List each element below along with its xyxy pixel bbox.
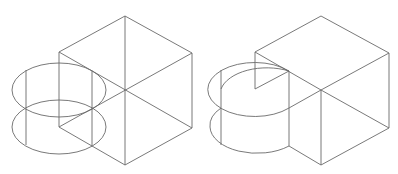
cube-front-lower-edge (289, 90, 321, 108)
diagram-canvas (0, 0, 398, 174)
cube-bottom-edges (289, 128, 389, 165)
cylinder-visible-edges (208, 63, 289, 154)
cylinder-bottom-ellipse-left (210, 108, 221, 127)
cube-visible-edges (255, 16, 389, 165)
cube-top-edges (59, 16, 192, 53)
right-figure (208, 16, 389, 165)
cube-diagonal-ll (59, 53, 192, 127)
cube-notch-diagonal (255, 71, 289, 89)
cube-top-face-edge-right (321, 53, 389, 90)
cube-wireframe (59, 16, 192, 165)
left-figure (12, 16, 192, 165)
cube-bottom-edges (59, 127, 192, 165)
cube-top-edges (255, 16, 389, 53)
cube-lower-right-diagonal (321, 90, 389, 128)
cylinder-bottom-ellipse-front (210, 127, 289, 153)
